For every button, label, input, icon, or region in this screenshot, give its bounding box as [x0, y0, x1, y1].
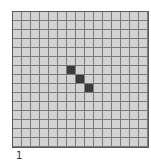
grid-cell: [103, 66, 112, 75]
grid-cell: [139, 84, 148, 93]
grid-cell: [103, 84, 112, 93]
grid-cell: [85, 138, 94, 147]
grid-cell: [112, 84, 121, 93]
grid-cell-filled: [85, 84, 94, 93]
grid-cell: [49, 129, 58, 138]
grid-cell: [112, 102, 121, 111]
grid-cell: [13, 12, 22, 21]
grid-cell: [40, 111, 49, 120]
grid-cell: [130, 111, 139, 120]
grid-cell: [22, 21, 31, 30]
grid-cell: [58, 102, 67, 111]
grid-cell: [58, 75, 67, 84]
grid-cell: [85, 111, 94, 120]
grid-cell: [94, 111, 103, 120]
grid-cell: [67, 84, 76, 93]
grid-cell: [94, 138, 103, 147]
grid-cell: [13, 48, 22, 57]
grid-cell: [67, 129, 76, 138]
grid-cell: [49, 57, 58, 66]
grid-cell: [94, 48, 103, 57]
grid-cell: [139, 120, 148, 129]
grid-cell: [85, 75, 94, 84]
grid-cell: [112, 48, 121, 57]
grid-cell: [76, 12, 85, 21]
grid-cell: [22, 84, 31, 93]
grid-cell: [31, 93, 40, 102]
grid-cell: [22, 120, 31, 129]
grid-cell: [112, 120, 121, 129]
grid-cell: [58, 93, 67, 102]
grid-cell: [40, 138, 49, 147]
grid-cell: [103, 138, 112, 147]
grid-cell: [31, 138, 40, 147]
grid-cell: [103, 39, 112, 48]
grid-cell: [22, 93, 31, 102]
grid-cell: [76, 57, 85, 66]
grid-cell: [130, 57, 139, 66]
grid-cell: [31, 39, 40, 48]
grid-cell: [139, 129, 148, 138]
grid-cell: [13, 21, 22, 30]
grid-cell: [40, 57, 49, 66]
grid-cell: [112, 93, 121, 102]
grid-cell: [103, 30, 112, 39]
grid-cell: [40, 75, 49, 84]
grid-cell: [13, 120, 22, 129]
grid-cell: [121, 93, 130, 102]
grid-cell: [85, 120, 94, 129]
grid-cell: [67, 138, 76, 147]
grid-cell: [76, 84, 85, 93]
grid-cell: [22, 39, 31, 48]
grid-cell: [85, 66, 94, 75]
grid-cell: [67, 111, 76, 120]
grid-cell: [103, 75, 112, 84]
grid-cell: [13, 138, 22, 147]
grid-cell: [13, 102, 22, 111]
grid-cell: [40, 93, 49, 102]
grid-cell: [85, 39, 94, 48]
grid-cell: [67, 102, 76, 111]
grid-cell: [67, 57, 76, 66]
grid-cell: [49, 93, 58, 102]
grid-cell: [112, 57, 121, 66]
grid-cell: [121, 30, 130, 39]
grid-cell: [94, 30, 103, 39]
grid-cell: [49, 21, 58, 30]
grid-cell: [130, 138, 139, 147]
grid-cell: [58, 129, 67, 138]
grid-cell: [94, 84, 103, 93]
grid-cell: [76, 93, 85, 102]
grid-cell: [22, 66, 31, 75]
grid-cell: [22, 57, 31, 66]
grid-cell: [22, 102, 31, 111]
grid-cell: [130, 12, 139, 21]
grid-cell: [22, 129, 31, 138]
grid-cell: [40, 129, 49, 138]
grid-cell: [58, 120, 67, 129]
grid-cell: [85, 30, 94, 39]
figure-label: 1: [16, 150, 22, 162]
grid-cell-filled: [67, 66, 76, 75]
grid-cell: [67, 75, 76, 84]
grid-cell: [130, 84, 139, 93]
grid-cell: [112, 111, 121, 120]
grid-cell: [13, 111, 22, 120]
grid-cell: [31, 48, 40, 57]
grid-cell: [94, 12, 103, 21]
grid-cell: [112, 138, 121, 147]
grid-cell: [94, 102, 103, 111]
grid-cell: [76, 129, 85, 138]
grid-cell: [139, 39, 148, 48]
grid-cell: [130, 30, 139, 39]
grid-cell: [103, 93, 112, 102]
grid-cell: [58, 138, 67, 147]
grid-cell: [112, 66, 121, 75]
grid-cell: [76, 66, 85, 75]
grid-cell: [112, 129, 121, 138]
grid-cell: [13, 57, 22, 66]
grid-cell: [121, 21, 130, 30]
grid-cell: [67, 39, 76, 48]
grid-cell: [58, 57, 67, 66]
grid-cell: [49, 48, 58, 57]
